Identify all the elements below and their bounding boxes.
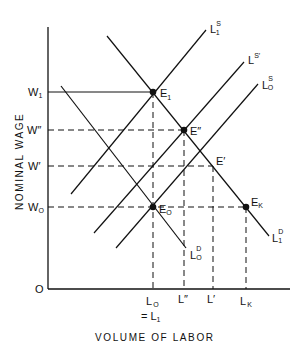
x-axis-title: VOLUME OF LABOR [95,332,215,343]
x-tick-l0-equals: = L1 [141,310,161,323]
point-epp-dot [181,127,188,134]
origin-label: O [35,283,44,295]
x-tick-lp: L′ [207,293,215,305]
y-tick-wpp: W″ [27,124,41,136]
curve-l1d-label: LD1 [272,228,283,244]
point-e1-label: E1 [160,87,171,101]
point-e0-label: EO [159,203,172,216]
curve-l0s [116,84,258,248]
labor-market-diagram: E1 E″ E′ EO EK LS1 LS′ LSO LD1 LDO W1 W″… [0,0,298,351]
curve-l0d-label: LDO [190,245,202,261]
y-tick-w0: WO [28,201,44,214]
x-tick-l0: LO [146,295,159,308]
curve-l1s-label: LS1 [210,20,221,36]
point-epp-label: E″ [190,125,201,137]
y-tick-wp: W′ [28,160,40,172]
x-tick-lk: LK [240,295,252,308]
point-e0-dot [150,204,157,211]
point-ep-label: E′ [216,155,225,167]
curve-l0s-label: LSO [262,75,274,91]
curve-l1s [71,30,206,194]
point-ek-label: EK [251,196,263,209]
point-ek-dot [243,204,250,211]
x-tick-lpp: L″ [178,293,188,305]
point-e1-dot [150,89,157,96]
curve-lsp-label: LS′ [248,52,261,66]
y-axis-title: NOMINAL WAGE [14,113,25,210]
y-tick-w1: W1 [28,86,42,99]
